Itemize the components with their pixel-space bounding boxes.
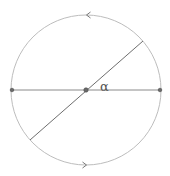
center-point bbox=[84, 88, 88, 92]
circle-diagram: α bbox=[0, 0, 170, 176]
left-endpoint-point bbox=[10, 88, 14, 92]
angle-alpha-label: α bbox=[100, 79, 109, 94]
right-endpoint-point bbox=[158, 88, 162, 92]
